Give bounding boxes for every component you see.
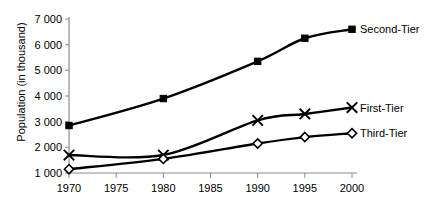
y-axis-ticks: 1 0002 0003 0004 0005 0006 0007 000 bbox=[34, 13, 69, 179]
marker-diamond bbox=[300, 132, 309, 141]
marker-square bbox=[254, 58, 260, 64]
x-tick-label: 2000 bbox=[340, 182, 364, 194]
x-axis-ticks: 1970197519801985199019952000 bbox=[57, 173, 364, 194]
x-tick-label: 1990 bbox=[245, 182, 269, 194]
marker-diamond bbox=[64, 165, 73, 174]
series-label-first-tier: First-Tier bbox=[360, 102, 404, 114]
y-tick-label: 4 000 bbox=[34, 90, 62, 102]
marker-square bbox=[349, 26, 355, 32]
x-tick-label: 1970 bbox=[57, 182, 81, 194]
x-tick-label: 1980 bbox=[151, 182, 175, 194]
population-line-chart: Population (in thousand) 1 0002 0003 000… bbox=[0, 0, 425, 199]
y-tick-label: 5 000 bbox=[34, 64, 62, 76]
x-tick-label: 1975 bbox=[104, 182, 128, 194]
y-tick-label: 3 000 bbox=[34, 116, 62, 128]
x-tick-label: 1985 bbox=[198, 182, 222, 194]
y-tick-label: 6 000 bbox=[34, 39, 62, 51]
y-tick-label: 7 000 bbox=[34, 13, 62, 25]
series-label-second-tier: Second-Tier bbox=[360, 23, 420, 35]
marker-diamond bbox=[253, 139, 262, 148]
series-lines-group bbox=[69, 29, 352, 169]
marker-diamond bbox=[347, 129, 356, 138]
marker-square bbox=[302, 35, 308, 41]
plot-area: 1 0002 0003 0004 0005 0006 0007 000 1970… bbox=[0, 0, 425, 199]
marker-square bbox=[66, 122, 72, 128]
series-label-third-tier: Third-Tier bbox=[360, 127, 408, 139]
y-tick-label: 1 000 bbox=[34, 167, 62, 179]
x-tick-label: 1995 bbox=[293, 182, 317, 194]
series-line-second-tier bbox=[69, 29, 352, 125]
y-tick-label: 2 000 bbox=[34, 141, 62, 153]
marker-square bbox=[160, 95, 166, 101]
axis-lines bbox=[69, 17, 357, 173]
series-labels-group: Second-TierFirst-TierThird-Tier bbox=[360, 23, 420, 139]
